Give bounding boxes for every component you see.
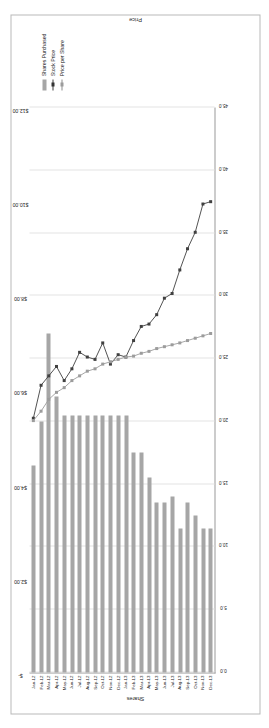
y-tick-label: 20.0 — [219, 416, 228, 421]
category-label: Apr-13 — [146, 675, 151, 688]
legend-line-swatch-icon — [50, 79, 55, 90]
category-label: Jan-13 — [123, 675, 128, 688]
line-path — [33, 201, 210, 418]
legend-bar-swatch-icon — [42, 79, 46, 90]
data-point-marker — [139, 324, 142, 327]
category-label: Aug-13 — [177, 675, 182, 689]
data-point-marker — [39, 383, 42, 386]
data-point-marker — [201, 202, 204, 205]
category-label: Feb-13 — [131, 675, 136, 689]
legend-label: Price per Share — [57, 40, 66, 76]
y-tick-label: 45.0 — [219, 102, 228, 107]
secondary-y-tick-label: $- — [18, 672, 23, 678]
y-tick-label: 5.0 — [220, 604, 226, 609]
legend-item-price-per-share: Price per Share — [57, 33, 66, 90]
legend-label: Shares Purchased — [39, 33, 48, 76]
category-label: Mar-13 — [138, 675, 143, 689]
data-point-marker — [162, 296, 165, 299]
chart-page: Shares Price Shares Purchased Stock Pric… — [0, 0, 269, 728]
category-label: May-13 — [154, 675, 159, 690]
data-point-marker — [54, 364, 57, 367]
y-axis-title: Shares — [126, 695, 144, 701]
secondary-y-tick-label: $10.00 — [12, 201, 28, 207]
category-label: Oct-13 — [192, 675, 197, 688]
y-tick-label: 15.0 — [219, 479, 228, 484]
category-label: Feb-12 — [38, 675, 43, 689]
category-label: Sep-13 — [185, 675, 190, 689]
secondary-y-tick-label: $4.00 — [14, 484, 27, 490]
chart-frame: Shares Price Shares Purchased Stock Pric… — [10, 14, 260, 714]
category-label: Dec-12 — [115, 675, 120, 689]
category-label: Aug-12 — [84, 675, 89, 689]
category-label: Jan-12 — [30, 675, 35, 688]
category-label: Apr-12 — [53, 675, 58, 688]
plot-area: 45.040.035.030.025.020.015.010.05.00.0 $… — [29, 107, 215, 673]
data-point-marker — [70, 379, 73, 382]
data-point-marker — [101, 341, 104, 344]
data-point-marker — [54, 390, 57, 393]
secondary-y-tick-label: $8.00 — [14, 295, 27, 301]
chart-legend: Shares Purchased Stock Price Price per S… — [39, 33, 66, 90]
category-label: Jun-12 — [69, 675, 74, 688]
secondary-y-tick-label: $12.00 — [12, 107, 28, 113]
category-label: Jun-13 — [161, 675, 166, 688]
line-path — [33, 333, 210, 420]
y-tick-label: 35.0 — [219, 228, 228, 233]
category-label: Oct-12 — [100, 675, 105, 688]
category-label: Mar-12 — [46, 675, 51, 689]
secondary-y-tick-label: $2.00 — [14, 578, 27, 584]
category-label: Jul-12 — [77, 675, 82, 687]
y-tick-label: 40.0 — [219, 165, 228, 170]
y-tick-label: 30.0 — [219, 290, 228, 295]
secondary-y-tick-label: $6.00 — [14, 390, 27, 396]
rotated-chart-wrapper: Shares Price Shares Purchased Stock Pric… — [0, 0, 269, 728]
y-tick-label: 10.0 — [219, 541, 228, 546]
line-series — [29, 107, 214, 672]
category-label: Nov-13 — [200, 675, 205, 689]
legend-label: Stock Price — [48, 49, 57, 75]
data-point-marker — [47, 374, 50, 377]
category-label: May-12 — [61, 675, 66, 690]
secondary-y-axis-title: Price — [129, 16, 142, 22]
legend-item-shares-purchased: Shares Purchased — [39, 33, 48, 90]
legend-line2-swatch-icon — [59, 79, 64, 90]
category-label: Sep-12 — [92, 675, 97, 689]
legend-item-stock-price: Stock Price — [48, 33, 57, 90]
data-point-marker — [47, 397, 50, 400]
category-label: Dec-13 — [208, 675, 213, 689]
category-label: Jul-13 — [169, 675, 174, 687]
y-tick-label: 0.0 — [220, 667, 226, 672]
y-tick-label: 25.0 — [219, 353, 228, 358]
data-point-marker — [116, 353, 119, 356]
data-point-marker — [78, 350, 81, 353]
category-label: Nov-12 — [107, 675, 112, 689]
